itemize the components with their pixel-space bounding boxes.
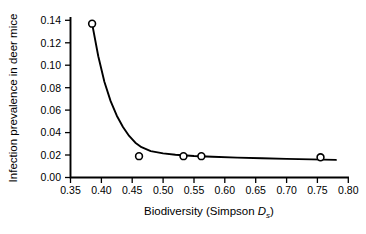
y-tick-labels: 0.00 0.02 0.04 0.06 0.08 0.10 0.12 0.14 <box>41 14 62 183</box>
x-tick-label: 0.70 <box>276 184 297 196</box>
x-tick-label: 0.80 <box>338 184 359 196</box>
data-point-markers <box>89 20 324 160</box>
y-tick-label: 0.00 <box>41 171 62 183</box>
x-tick-label: 0.40 <box>91 184 112 196</box>
y-tick-label: 0.08 <box>41 82 62 94</box>
x-tick-labels: 0.35 0.40 0.45 0.50 0.55 0.60 0.65 0.70 … <box>60 184 358 196</box>
x-tick-label: 0.75 <box>307 184 328 196</box>
x-tick-label: 0.60 <box>215 184 236 196</box>
x-tick-label: 0.45 <box>122 184 143 196</box>
x-axis-title-symbol: D <box>258 205 266 217</box>
x-axis-title-prefix: Biodiversity (Simpson <box>144 205 258 217</box>
scatter-plot: 0.00 0.02 0.04 0.06 0.08 0.10 0.12 0.14 … <box>0 0 366 234</box>
x-axis-title-suffix: ) <box>270 205 274 217</box>
fitted-curve <box>92 24 336 160</box>
y-tick-label: 0.06 <box>41 104 62 116</box>
y-tick-label: 0.14 <box>41 14 62 26</box>
data-point <box>317 154 324 161</box>
x-tick-label: 0.50 <box>153 184 174 196</box>
x-tick-label: 0.65 <box>245 184 266 196</box>
data-point <box>180 153 187 160</box>
chart-figure: 0.00 0.02 0.04 0.06 0.08 0.10 0.12 0.14 … <box>0 0 366 234</box>
data-point <box>89 20 96 27</box>
y-axis-title: Infection prevalence in deer mice <box>7 14 19 183</box>
data-point <box>198 153 205 160</box>
y-tick-label: 0.02 <box>41 149 62 161</box>
y-tick-label: 0.12 <box>41 37 62 49</box>
data-point <box>136 153 143 160</box>
y-tick-label: 0.04 <box>41 126 62 138</box>
x-tick-label: 0.35 <box>60 184 81 196</box>
x-tick-label: 0.55 <box>184 184 205 196</box>
axis-lines <box>71 18 349 178</box>
y-tick-label: 0.10 <box>41 59 62 71</box>
x-axis-title: Biodiversity (Simpson Ds) <box>144 205 274 220</box>
